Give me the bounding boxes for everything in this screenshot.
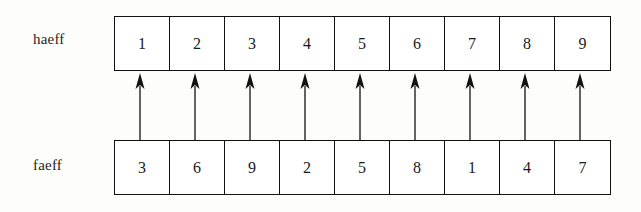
- faeff-cell-5: 8: [390, 141, 445, 194]
- array-mapping-diagram: haeff 1 2 3 4 5 6 7 8 9 faeff 3 6 9 2 5 …: [0, 0, 641, 212]
- faeff-cell-0: 3: [115, 141, 170, 194]
- arrow-up-icon-4: [356, 73, 365, 89]
- row-label-faeff: faeff: [33, 157, 62, 174]
- haeff-cell-1: 2: [170, 17, 225, 70]
- haeff-cell-3: 4: [280, 17, 335, 70]
- faeff-cell-8: 7: [555, 141, 610, 194]
- faeff-cell-6: 1: [445, 141, 500, 194]
- arrow-up-icon-6: [466, 73, 475, 89]
- haeff-cell-2: 3: [225, 17, 280, 70]
- haeff-array-row: 1 2 3 4 5 6 7 8 9: [114, 16, 611, 71]
- haeff-cell-4: 5: [335, 17, 390, 70]
- row-label-haeff: haeff: [33, 31, 65, 48]
- faeff-cell-4: 5: [335, 141, 390, 194]
- haeff-cell-7: 8: [500, 17, 555, 70]
- faeff-cell-3: 2: [280, 141, 335, 194]
- arrow-up-icon-5: [411, 73, 420, 89]
- faeff-cell-2: 9: [225, 141, 280, 194]
- haeff-cell-8: 9: [555, 17, 610, 70]
- haeff-cell-6: 7: [445, 17, 500, 70]
- haeff-cell-5: 6: [390, 17, 445, 70]
- arrow-up-icon-2: [246, 73, 255, 89]
- faeff-array-row: 3 6 9 2 5 8 1 4 7: [114, 140, 611, 195]
- arrow-up-icon-7: [521, 73, 530, 89]
- faeff-cell-1: 6: [170, 141, 225, 194]
- arrow-up-icon-3: [301, 73, 310, 89]
- arrow-up-icon-1: [191, 73, 200, 89]
- haeff-cell-0: 1: [115, 17, 170, 70]
- arrow-up-icon-8: [576, 73, 585, 89]
- faeff-cell-7: 4: [500, 141, 555, 194]
- arrow-up-icon-0: [136, 73, 145, 89]
